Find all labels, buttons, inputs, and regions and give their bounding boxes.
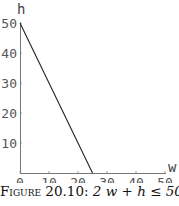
y-tick-label: 20 xyxy=(1,106,17,121)
series-line xyxy=(20,23,93,173)
x-ticks: 01020304050 xyxy=(16,171,173,183)
x-axis-label: w xyxy=(168,159,177,175)
figure-label: Figure 20.10: xyxy=(0,183,89,199)
y-axis-label: h xyxy=(17,1,25,17)
x-tick-label: 50 xyxy=(157,175,173,183)
y-ticks: 1020304050 xyxy=(1,16,22,151)
x-tick-label: 40 xyxy=(128,175,144,183)
x-tick-label: 20 xyxy=(70,175,86,183)
y-tick-label: 50 xyxy=(1,16,17,31)
y-tick-label: 40 xyxy=(1,46,17,61)
y-tick-label: 10 xyxy=(1,136,17,151)
x-tick-label: 10 xyxy=(41,175,57,183)
figure-caption: Figure 20.10: 2 w + h ≤ 50 xyxy=(0,183,179,199)
series-lines xyxy=(20,23,93,173)
x-tick-label: 30 xyxy=(99,175,115,183)
chart: 01020304050 1020304050 h w xyxy=(0,0,179,183)
y-tick-label: 30 xyxy=(1,76,17,91)
figure-expression: 2 w + h ≤ 50 xyxy=(93,183,179,199)
x-tick-label: 0 xyxy=(16,175,24,183)
